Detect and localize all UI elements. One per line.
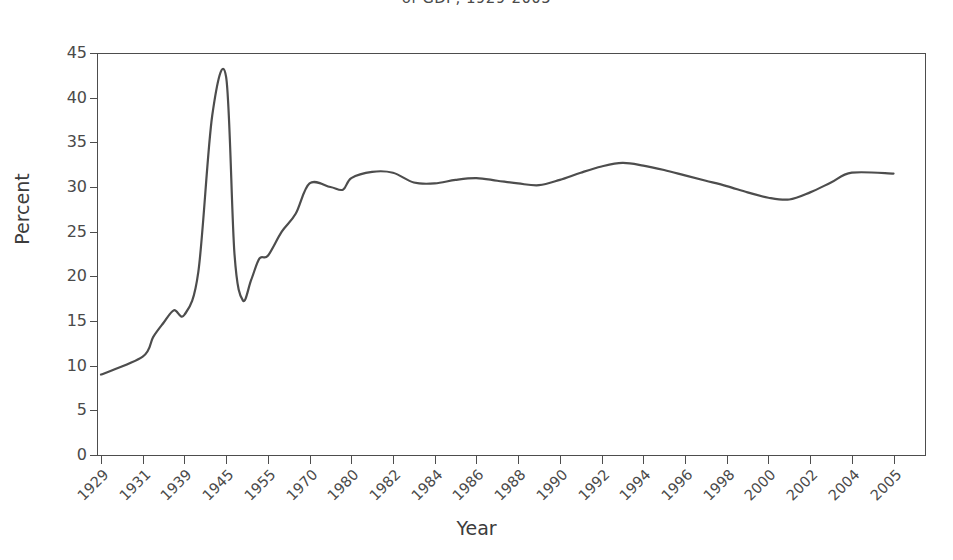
x-tick-mark	[643, 456, 644, 464]
x-tick-mark	[393, 456, 394, 464]
x-tick-mark	[727, 456, 728, 464]
x-tick-mark	[101, 456, 102, 464]
y-tick-mark	[90, 98, 97, 99]
y-tick-label: 25	[51, 224, 87, 240]
series-line-path	[101, 69, 894, 375]
y-tick-label: 35	[51, 134, 87, 150]
y-tick-mark	[90, 142, 97, 143]
plot-border-top	[97, 53, 926, 54]
x-tick-mark	[685, 456, 686, 464]
x-tick-mark	[560, 456, 561, 464]
y-tick-label: 10	[51, 358, 87, 374]
y-tick-mark	[90, 366, 97, 367]
x-tick-mark	[602, 456, 603, 464]
y-tick-label: 20	[51, 268, 87, 284]
y-tick-mark	[90, 276, 97, 277]
y-tick-mark	[90, 455, 97, 456]
x-tick-mark	[184, 456, 185, 464]
x-tick-mark	[768, 456, 769, 464]
y-tick-label: 5	[51, 402, 87, 418]
x-tick-mark	[351, 456, 352, 464]
y-tick-label: 15	[51, 313, 87, 329]
y-tick-label: 0	[51, 447, 87, 463]
y-tick-label: 45	[51, 45, 87, 61]
x-tick-mark	[476, 456, 477, 464]
x-tick-mark	[310, 456, 311, 464]
y-tick-mark	[90, 53, 97, 54]
y-tick-mark	[90, 187, 97, 188]
x-axis-line	[97, 455, 926, 456]
plot-border-right	[925, 53, 926, 456]
y-tick-mark	[90, 232, 97, 233]
x-axis-label: Year	[0, 517, 953, 539]
x-tick-mark	[143, 456, 144, 464]
y-axis-label: Percent	[11, 173, 33, 245]
x-tick-mark	[518, 456, 519, 464]
x-tick-mark	[435, 456, 436, 464]
chart-figure: of GDP, 1929-2005 051015202530354045 192…	[0, 0, 953, 560]
chart-title: of GDP, 1929-2005	[0, 0, 953, 8]
x-tick-mark	[852, 456, 853, 464]
y-tick-label: 40	[51, 90, 87, 106]
y-axis-line	[97, 53, 98, 456]
x-tick-mark	[226, 456, 227, 464]
y-tick-label: 30	[51, 179, 87, 195]
x-tick-mark	[894, 456, 895, 464]
x-tick-mark	[810, 456, 811, 464]
x-tick-mark	[268, 456, 269, 464]
y-tick-mark	[90, 321, 97, 322]
y-tick-mark	[90, 410, 97, 411]
